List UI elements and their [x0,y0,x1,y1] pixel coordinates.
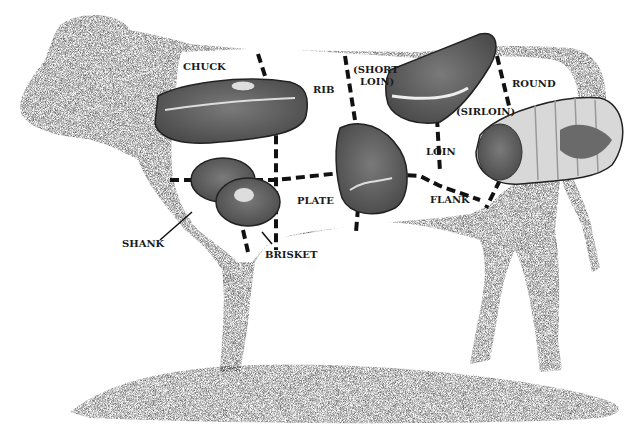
label-plate: PLATE [297,195,334,206]
label-shank: SHANK [122,238,165,249]
label-rib: RIB [313,84,334,95]
label-short-loin-line1: (SHORT [353,64,399,75]
ground [70,364,619,423]
label-sirloin: (SIRLOIN) [456,106,515,117]
beef-cuts-diagram: CHUCK RIB (SHORT LOIN) ROUND (SIRLOIN) L… [0,0,638,442]
label-loin: LOIN [426,146,456,157]
label-round: ROUND [512,78,556,89]
label-brisket: BRISKET [265,249,318,260]
label-flank: FLANK [430,194,470,205]
label-chuck: CHUCK [183,61,226,72]
label-short-loin-line2: LOIN) [360,76,394,87]
